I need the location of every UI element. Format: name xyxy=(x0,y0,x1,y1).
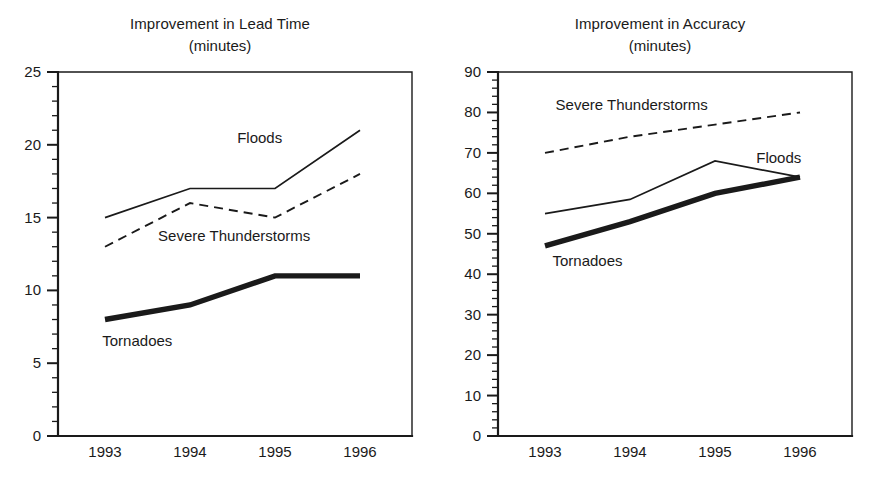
series-line-tornadoes xyxy=(105,276,360,320)
y-axis-ticks xyxy=(487,72,498,436)
x-tick-label: 1996 xyxy=(343,443,376,460)
series-floods xyxy=(105,130,360,217)
y-tick-label: 0 xyxy=(33,427,41,444)
y-tick-label: 80 xyxy=(464,103,481,120)
plot-area-accuracy: 01020304050607080901993199419951996Sever… xyxy=(440,0,880,478)
y-tick-label: 10 xyxy=(24,281,41,298)
plot-box-outline xyxy=(58,72,412,436)
series-annotation-severe-thunderstorms: Severe Thunderstorms xyxy=(556,96,708,113)
y-tick-label: 5 xyxy=(33,354,41,371)
y-tick-label: 15 xyxy=(24,209,41,226)
x-tick-labels: 1993199419951996 xyxy=(88,443,376,460)
x-tick-label: 1994 xyxy=(613,443,646,460)
series-line-floods xyxy=(105,130,360,217)
series-line-severe-thunderstorms xyxy=(545,112,800,152)
series-line-tornadoes xyxy=(545,177,800,246)
y-tick-label: 50 xyxy=(464,225,481,242)
y-tick-label: 40 xyxy=(464,265,481,282)
two-panel-line-chart-figure: Improvement in Lead Time (minutes) 05101… xyxy=(0,0,880,478)
axis-lines xyxy=(58,72,412,436)
plot-area-lead-time: 05101520251993199419951996FloodsSevere T… xyxy=(0,0,440,478)
x-tick-label: 1995 xyxy=(258,443,291,460)
y-tick-label: 30 xyxy=(464,306,481,323)
series-annotation-tornadoes: Tornadoes xyxy=(102,332,172,349)
chart-panel-accuracy: Improvement in Accuracy (minutes) 010203… xyxy=(440,0,880,478)
series-severe-thunderstorms xyxy=(545,112,800,152)
y-tick-label: 10 xyxy=(464,387,481,404)
series-tornadoes xyxy=(545,177,800,246)
series-annotation-severe-thunderstorms: Severe Thunderstorms xyxy=(158,227,310,244)
series-annotation-floods: Floods xyxy=(237,129,282,146)
x-tick-label: 1993 xyxy=(88,443,121,460)
y-tick-labels: 0510152025 xyxy=(24,63,41,444)
y-tick-label: 25 xyxy=(24,63,41,80)
x-tick-label: 1994 xyxy=(173,443,206,460)
y-tick-label: 20 xyxy=(464,346,481,363)
y-tick-labels: 0102030405060708090 xyxy=(464,63,481,444)
chart-panel-lead-time: Improvement in Lead Time (minutes) 05101… xyxy=(0,0,440,478)
series-annotation-tornadoes: Tornadoes xyxy=(552,252,622,269)
y-axis-ticks xyxy=(47,72,58,436)
x-tick-label: 1996 xyxy=(783,443,816,460)
y-tick-label: 70 xyxy=(464,144,481,161)
series-annotation-floods: Floods xyxy=(756,149,801,166)
axis-lines xyxy=(498,72,852,436)
y-tick-label: 0 xyxy=(473,427,481,444)
x-tick-label: 1993 xyxy=(528,443,561,460)
x-tick-label: 1995 xyxy=(698,443,731,460)
y-tick-label: 60 xyxy=(464,184,481,201)
y-tick-label: 20 xyxy=(24,136,41,153)
plot-box-outline xyxy=(498,72,852,436)
x-tick-labels: 1993199419951996 xyxy=(528,443,816,460)
series-tornadoes xyxy=(105,276,360,320)
y-tick-label: 90 xyxy=(464,63,481,80)
